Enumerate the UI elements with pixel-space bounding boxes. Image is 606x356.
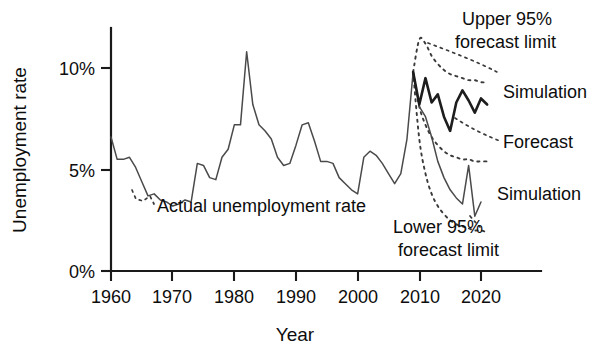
y-axis-title: Unemployment rate bbox=[9, 67, 30, 233]
x-tick-label-2010: 2010 bbox=[400, 287, 440, 307]
y-tick-label-5: 5% bbox=[69, 161, 95, 181]
x-tick-labels: 1960 1970 1980 1990 2000 2010 2020 bbox=[91, 287, 501, 307]
y-tick-labels: 10% 5% 0% bbox=[59, 59, 95, 282]
x-tick-label-1970: 1970 bbox=[152, 287, 192, 307]
x-tick-label-2000: 2000 bbox=[338, 287, 378, 307]
annotation-actual-series: Actual unemployment rate bbox=[157, 196, 366, 216]
annotations-group: Upper 95% forecast limit Simulation Fore… bbox=[157, 9, 587, 260]
annotation-lower-limit-line2: forecast limit bbox=[398, 240, 499, 260]
annotation-simulation-lower: Simulation bbox=[497, 184, 581, 204]
x-tick-label-1990: 1990 bbox=[276, 287, 316, 307]
y-tick-label-0: 0% bbox=[69, 262, 95, 282]
leader-actual bbox=[132, 190, 154, 204]
series-actual-unemployment-rate bbox=[111, 52, 413, 206]
annotation-simulation-upper: Simulation bbox=[503, 82, 587, 102]
annotation-forecast: Forecast bbox=[503, 132, 573, 152]
x-tick-label-2020: 2020 bbox=[461, 287, 501, 307]
x-tick-label-1980: 1980 bbox=[214, 287, 254, 307]
annotation-upper-limit-line2: forecast limit bbox=[455, 32, 556, 52]
y-tick-label-10: 10% bbox=[59, 59, 95, 79]
series-lower-95-forecast-limit bbox=[413, 72, 487, 232]
annotation-lower-limit-line1: Lower 95% bbox=[393, 217, 483, 237]
unemployment-forecast-chart: 10% 5% 0% 1960 1970 1980 1990 2000 2010 … bbox=[0, 0, 606, 356]
series-simulation-lower bbox=[413, 72, 481, 216]
chart-svg: 10% 5% 0% 1960 1970 1980 1990 2000 2010 … bbox=[0, 0, 606, 356]
leader-forecast bbox=[455, 118, 500, 141]
x-tick-label-1960: 1960 bbox=[91, 287, 131, 307]
annotation-upper-limit-line1: Upper 95% bbox=[462, 9, 552, 29]
x-axis-title: Year bbox=[276, 324, 315, 345]
